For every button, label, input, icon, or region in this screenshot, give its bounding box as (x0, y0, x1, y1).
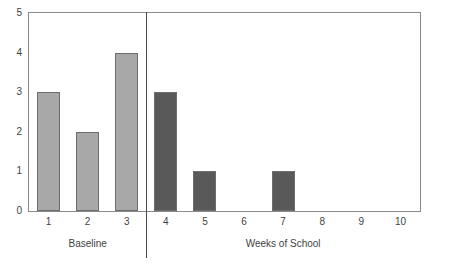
x-tick-label: 6 (241, 216, 247, 228)
phase-separator-line (146, 12, 147, 258)
phase-labels: BaselineWeeks of School (29, 238, 420, 252)
y-tick-label: 4 (0, 48, 22, 58)
bar (76, 132, 99, 211)
x-tick-label: 3 (124, 216, 130, 228)
y-axis: 012345 (0, 12, 22, 212)
y-tick-label: 3 (0, 87, 22, 97)
bar (272, 171, 295, 211)
bar (154, 92, 177, 211)
x-axis: 12345678910 (29, 216, 420, 230)
x-tick-label: 10 (395, 216, 406, 228)
bar (115, 53, 138, 211)
phase-label: Baseline (68, 238, 106, 250)
x-tick-label: 9 (359, 216, 365, 228)
x-tick-label: 5 (202, 216, 208, 228)
y-tick-label: 5 (0, 8, 22, 18)
y-tick-label: 0 (0, 206, 22, 216)
y-tick-label: 2 (0, 127, 22, 137)
bar (37, 92, 60, 211)
bars-container (29, 13, 420, 211)
phase-label: Weeks of School (246, 238, 321, 250)
x-tick-label: 1 (46, 216, 52, 228)
y-tick-label: 1 (0, 166, 22, 176)
x-tick-label: 2 (85, 216, 91, 228)
bar-chart: 012345 12345678910 BaselineWeeks of Scho… (0, 0, 451, 268)
x-tick-label: 8 (319, 216, 325, 228)
x-tick-label: 7 (280, 216, 286, 228)
x-tick-label: 4 (163, 216, 169, 228)
bar (193, 171, 216, 211)
